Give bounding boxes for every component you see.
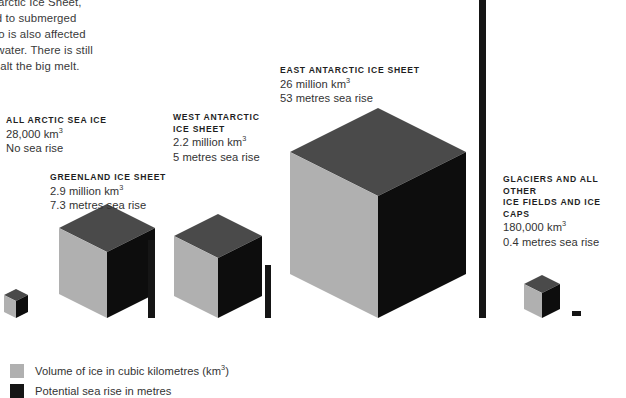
cube-right-face (542, 284, 560, 318)
cube-top-face (524, 275, 560, 293)
cube-left-face (290, 152, 378, 318)
label-east-antarctic-ice-sheet: EAST ANTARCTIC ICE SHEET 26 million km3 … (280, 65, 460, 105)
label-sea-rise: No sea rise (6, 141, 156, 155)
label-west-antarctic-ice-sheet: WEST ANTARCTIC ICE SHEET 2.2 million km3… (173, 112, 283, 164)
cube-right-face (107, 228, 155, 318)
cube-arctic (4, 289, 28, 318)
label-sea-rise: 0.4 metres sea rise (503, 235, 626, 249)
cube-right-face (16, 295, 28, 318)
sea-rise-bar-west-antarctic (265, 265, 271, 318)
label-sea-rise: 7.3 metres sea rise (50, 198, 215, 212)
cube-left-face (174, 236, 218, 318)
label-title: GLACIERS AND ALL OTHER ICE FIELDS AND IC… (503, 174, 626, 220)
label-sea-rise: 53 metres sea rise (280, 91, 460, 105)
label-volume: 28,000 km3 (6, 127, 156, 141)
cube-left-face (4, 295, 16, 318)
cube-west-antarctic (174, 214, 262, 318)
cube-left-face (524, 284, 542, 318)
legend-item-sea-rise: Potential sea rise in metres (10, 382, 430, 398)
legend-swatch-volume-icon (10, 364, 24, 378)
label-title: ALL ARCTIC SEA ICE (6, 115, 156, 127)
cube-greenland (59, 204, 155, 318)
cube-left-face (59, 228, 107, 318)
legend-item-volume: Volume of ice in cubic kilometres (km3) (10, 362, 430, 380)
cube-top-face (174, 214, 262, 258)
label-volume: 2.9 million km3 (50, 184, 215, 198)
label-title: WEST ANTARCTIC ICE SHEET (173, 112, 283, 135)
intro-paragraph: g West Antarctic Ice Sheet, is anchored … (0, 0, 232, 74)
infographic-canvas: g West Antarctic Ice Sheet, is anchored … (0, 0, 626, 398)
legend-swatch-sea-rise-icon (10, 384, 24, 398)
legend: Volume of ice in cubic kilometres (km3) … (10, 362, 430, 398)
cube-east-antarctic (290, 108, 466, 318)
cube-top-face (4, 289, 28, 301)
legend-label-volume: Volume of ice in cubic kilometres (km3) (35, 364, 229, 378)
sea-rise-bar-glaciers (572, 311, 581, 316)
label-title: EAST ANTARCTIC ICE SHEET (280, 65, 460, 77)
label-sea-rise: 5 metres sea rise (173, 150, 283, 164)
sea-rise-bar-east-antarctic (479, 0, 486, 318)
legend-label-sea-rise: Potential sea rise in metres (35, 384, 172, 398)
label-all-arctic-sea-ice: ALL ARCTIC SEA ICE 28,000 km3 No sea ris… (6, 115, 156, 155)
label-volume: 2.2 million km3 (173, 135, 283, 149)
label-glaciers-and-ice-caps: GLACIERS AND ALL OTHER ICE FIELDS AND IC… (503, 174, 626, 249)
label-greenland-ice-sheet: GREENLAND ICE SHEET 2.9 million km3 7.3 … (50, 172, 215, 212)
cube-right-face (218, 236, 262, 318)
sea-rise-bar-greenland (148, 240, 155, 318)
cube-right-face (378, 152, 466, 318)
label-volume: 180,000 km3 (503, 220, 626, 234)
label-volume: 26 million km3 (280, 77, 460, 91)
cube-top-face (290, 108, 466, 196)
cube-glaciers (524, 275, 560, 318)
label-title: GREENLAND ICE SHEET (50, 172, 215, 184)
